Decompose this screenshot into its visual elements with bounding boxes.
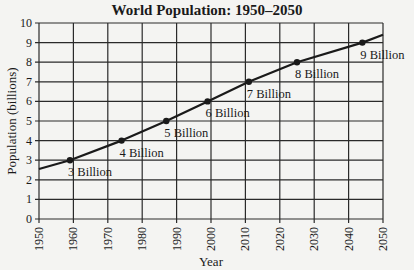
x-tick-label: 2050 — [376, 227, 390, 251]
y-tick-label: 7 — [26, 75, 32, 89]
line-chart: 1950196019701980199020002010202020302040… — [0, 0, 414, 270]
y-tick-label: 1 — [26, 192, 32, 206]
x-tick-label: 1990 — [170, 227, 184, 251]
y-tick-label: 5 — [26, 114, 32, 128]
x-tick-label: 2040 — [342, 227, 356, 251]
data-point-label: 8 Billion — [295, 67, 340, 81]
x-axis-title: Year — [199, 254, 224, 269]
x-tick-label: 2010 — [238, 227, 252, 251]
x-tick-label: 2020 — [273, 227, 287, 251]
y-tick-label: 3 — [26, 153, 32, 167]
data-point-marker — [359, 39, 365, 45]
data-point-marker — [294, 59, 300, 65]
x-tick-label: 1970 — [101, 227, 115, 251]
data-point-label: 4 Billion — [120, 146, 165, 160]
data-point-label: 3 Billion — [68, 165, 113, 179]
x-tick-label: 2030 — [307, 227, 321, 251]
data-point-label: 6 Billion — [206, 106, 251, 120]
x-tick-label: 1980 — [135, 227, 149, 251]
y-axis-title: Population (billions) — [4, 67, 19, 174]
data-point-marker — [204, 98, 210, 104]
x-tick-label: 2000 — [204, 227, 218, 251]
data-point-marker — [163, 118, 169, 124]
y-tick-label: 4 — [26, 134, 32, 148]
y-tick-label: 10 — [20, 16, 32, 30]
y-tick-label: 8 — [26, 55, 32, 69]
y-tick-label: 2 — [26, 173, 32, 187]
y-tick-label: 9 — [26, 36, 32, 50]
y-tick-label: 0 — [26, 212, 32, 226]
y-tick-label: 6 — [26, 94, 32, 108]
data-point-label: 9 Billion — [360, 48, 405, 62]
data-point-marker — [118, 137, 124, 143]
data-point-label: 7 Billion — [247, 87, 292, 101]
data-point-marker — [67, 157, 73, 163]
x-tick-label: 1960 — [66, 227, 80, 251]
data-point-marker — [246, 79, 252, 85]
data-point-label: 5 Billion — [164, 126, 209, 140]
x-tick-label: 1950 — [32, 227, 46, 251]
